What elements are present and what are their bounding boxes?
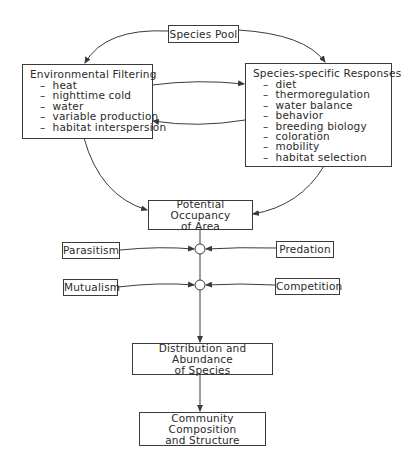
arrow-env-to-species <box>152 82 244 85</box>
species-specific-box: Species-specific Responses diet thermore… <box>245 63 392 167</box>
predation-label: Predation <box>277 244 333 255</box>
community-line2: and Structure <box>140 435 265 446</box>
community-line1: Community Composition <box>140 413 265 435</box>
arrow-species-to-potential <box>253 166 324 214</box>
predation-box: Predation <box>276 241 334 258</box>
potential-occupancy-line2: of Area <box>149 221 252 232</box>
arrow-env-to-potential <box>84 138 147 210</box>
species-pool-box: Species Pool <box>168 25 239 43</box>
arrow-predation <box>206 248 276 249</box>
arrow-pool-to-species <box>238 30 325 62</box>
distribution-line2: of Species <box>133 365 272 376</box>
parasitism-label: Parasitism <box>63 245 119 256</box>
species-pool-label: Species Pool <box>169 29 238 40</box>
competition-box: Competition <box>275 278 340 295</box>
potential-occupancy-box: Potential Occupancy of Area <box>148 200 253 230</box>
distribution-line1: Distribution and Abundance <box>133 343 272 365</box>
distribution-abundance-box: Distribution and Abundance of Species <box>132 343 273 375</box>
arrow-competition <box>206 284 275 285</box>
env-item: habitat interspersion <box>30 122 152 132</box>
competition-label: Competition <box>276 281 339 292</box>
arrow-species-to-env <box>153 120 245 124</box>
arrow-parasitism <box>120 248 194 250</box>
species-item: habitat selection <box>253 152 391 162</box>
potential-occupancy-line1: Potential Occupancy <box>149 199 252 221</box>
mutualism-label: Mutualism <box>64 282 117 293</box>
junction-circle-2 <box>195 280 205 290</box>
environmental-filtering-box: Environmental Filtering heat nighttime c… <box>22 64 153 139</box>
community-composition-box: Community Composition and Structure <box>139 412 266 446</box>
ecology-flow-diagram: Species Pool Environmental Filtering hea… <box>0 0 410 471</box>
mutualism-box: Mutualism <box>63 279 118 296</box>
arrow-mutualism <box>118 284 194 287</box>
parasitism-box: Parasitism <box>62 242 120 259</box>
arrow-pool-to-env <box>85 31 168 63</box>
junction-circle-1 <box>195 244 205 254</box>
